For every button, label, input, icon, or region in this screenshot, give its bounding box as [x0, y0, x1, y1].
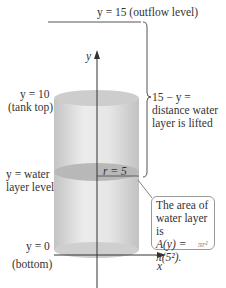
callout-underbrace-label: πr²	[198, 238, 208, 251]
water-layer-label-desc: layer level	[6, 181, 54, 194]
y-axis-arrow-icon	[94, 50, 100, 59]
bottom-label-desc: (bottom)	[12, 258, 52, 271]
brace-icon	[143, 22, 151, 177]
callout-line2: water layer is	[156, 212, 214, 238]
y-axis-label: y	[86, 50, 91, 63]
x-axis-label: x	[157, 260, 162, 273]
outflow-level-label: y = 15 (outflow level)	[97, 6, 198, 19]
water-layer-label-value: y = water	[6, 168, 50, 181]
radius-label: r = 5	[103, 165, 127, 178]
brace-text-line1: 15 − y =	[152, 91, 191, 104]
callout-pointer	[138, 180, 152, 198]
tank-top-label-value: y = 10	[20, 88, 50, 101]
area-callout: The area of water layer is A(y) = π(5²).…	[151, 196, 215, 250]
tank-top-label-desc: (tank top)	[8, 101, 53, 114]
brace-text-line2: distance water	[152, 104, 218, 117]
callout-line1: The area of	[156, 199, 214, 212]
bottom-label-value: y = 0	[26, 240, 50, 253]
brace-text-line3: layer is lifted	[152, 117, 213, 130]
